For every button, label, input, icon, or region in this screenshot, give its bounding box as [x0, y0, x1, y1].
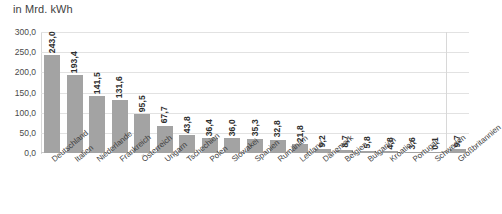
- x-axis-category-labels: DeutschlandItalienNiederlandeFrankreichÖ…: [41, 156, 469, 214]
- y-tick-label: 250,0: [0, 47, 36, 57]
- y-tick-label: 100,0: [0, 108, 36, 118]
- plot-area: 243,0193,4141,5131,695,567,743,836,436,0…: [41, 32, 469, 153]
- gridline: [41, 93, 469, 94]
- y-tick-label: 150,0: [0, 88, 36, 98]
- y-axis-tick-labels: 0,050,0100,0150,0200,0250,0300,0: [0, 0, 38, 214]
- y-tick-label: 50,0: [0, 128, 36, 138]
- bar-value-label: 193,4: [70, 51, 79, 73]
- group-separator-line: [446, 32, 447, 153]
- bar-value-label: 35,3: [251, 119, 260, 136]
- bar-value-label: 95,5: [138, 95, 147, 112]
- bar-value-label: 243,0: [48, 31, 57, 53]
- bar-value-label: 43,8: [183, 116, 192, 133]
- y-tick-label: 200,0: [0, 67, 36, 77]
- bar: [89, 96, 105, 153]
- gridline: [41, 52, 469, 53]
- bar-value-label: 36,0: [228, 119, 237, 136]
- bar: [44, 55, 60, 153]
- bar-value-label: 32,8: [273, 120, 282, 137]
- gridline: [41, 32, 469, 33]
- bar-value-label: 141,5: [93, 72, 102, 94]
- bar-value-label: 67,7: [160, 106, 169, 123]
- bar-value-label: 131,6: [115, 76, 124, 98]
- y-tick-label: 0,0: [0, 148, 36, 158]
- y-tick-label: 300,0: [0, 27, 36, 37]
- gridline: [41, 72, 469, 73]
